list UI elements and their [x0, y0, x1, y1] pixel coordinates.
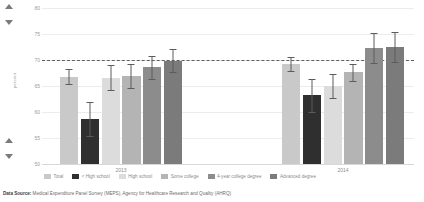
x-axis-tick-label: 2014: [337, 167, 348, 173]
legend-item[interactable]: High school: [119, 174, 153, 179]
legend-label: Total: [54, 174, 64, 179]
error-bar: [110, 65, 111, 90]
data-source-label: Data Source:: [3, 191, 31, 196]
legend-swatch: [72, 174, 79, 179]
y-axis-tick-label: 75: [26, 31, 40, 37]
bar[interactable]: [282, 64, 300, 164]
legend-item[interactable]: Advanced degree: [270, 174, 316, 179]
bar[interactable]: [164, 61, 182, 164]
legend-item[interactable]: 4-year college degree: [208, 174, 262, 179]
error-bar: [291, 57, 292, 71]
error-bar-cap-bottom: [308, 112, 315, 113]
error-bar: [374, 33, 375, 63]
bar[interactable]: [386, 47, 404, 164]
y-axis-tick-label: 70: [26, 57, 40, 63]
chart-widget: percent 80757065605550 20132014 Total< H…: [0, 0, 424, 202]
error-bar: [131, 64, 132, 88]
legend-item[interactable]: < High school: [72, 174, 109, 179]
legend-item[interactable]: Some college: [161, 174, 198, 179]
error-bar-cap-bottom: [371, 63, 378, 64]
legend-label: 4-year college degree: [217, 174, 261, 179]
arrow-down-icon[interactable]: [5, 20, 13, 25]
error-bar: [332, 74, 333, 99]
error-bar-cap-top: [169, 49, 176, 50]
bar[interactable]: [81, 119, 99, 164]
bar[interactable]: [303, 95, 321, 164]
error-bar: [89, 102, 90, 136]
bar-fill: [365, 48, 383, 164]
scroll-spinner-bottom[interactable]: [2, 138, 15, 159]
bar-group: [282, 8, 404, 164]
error-bar-cap-bottom: [391, 62, 398, 63]
error-bar-cap-bottom: [288, 71, 295, 72]
error-bar-cap-top: [308, 79, 315, 80]
error-bar-cap-top: [371, 33, 378, 34]
arrow-down-icon[interactable]: [5, 154, 13, 159]
bar-fill: [143, 67, 161, 164]
error-bar-cap-top: [149, 56, 156, 57]
bar-fill: [282, 64, 300, 164]
error-bar-cap-top: [288, 57, 295, 58]
gridline: [42, 164, 414, 165]
error-bar-cap-top: [128, 64, 135, 65]
legend-label: Advanced degree: [280, 174, 316, 179]
legend-swatch: [270, 174, 277, 179]
scroll-spinner-top[interactable]: [2, 4, 15, 25]
legend-label: Some college: [171, 174, 199, 179]
bar[interactable]: [143, 67, 161, 164]
bar-group: [60, 8, 182, 164]
error-bar-cap-top: [107, 65, 114, 66]
y-axis-tick-label: 55: [26, 135, 40, 141]
error-bar: [172, 49, 173, 73]
bar-fill: [164, 61, 182, 164]
error-bar-cap-top: [66, 69, 73, 70]
error-bar-cap-top: [329, 74, 336, 75]
legend-swatch: [119, 174, 126, 179]
y-axis-tick-label: 50: [26, 161, 40, 167]
chart-legend: Total< High schoolHigh schoolSome colleg…: [44, 174, 418, 179]
y-axis-tick-label: 65: [26, 83, 40, 89]
bar-fill: [386, 47, 404, 164]
error-bar-cap-bottom: [169, 72, 176, 73]
x-axis-tick-label: 2013: [115, 167, 126, 173]
error-bar: [311, 79, 312, 112]
bar[interactable]: [102, 78, 120, 164]
error-bar-cap-top: [391, 32, 398, 33]
error-bar-cap-bottom: [107, 90, 114, 91]
error-bar-cap-bottom: [329, 98, 336, 99]
legend-item[interactable]: Total: [44, 174, 63, 179]
bar-fill: [122, 76, 140, 164]
error-bar: [353, 64, 354, 82]
legend-swatch: [44, 174, 51, 179]
bar[interactable]: [344, 72, 362, 164]
error-bar-cap-bottom: [350, 81, 357, 82]
bar[interactable]: [60, 77, 78, 164]
arrow-up-icon[interactable]: [5, 138, 13, 143]
plot-area: 80757065605550 20132014: [42, 8, 414, 164]
y-axis-tick-label: 60: [26, 109, 40, 115]
error-bar-cap-top: [86, 102, 93, 103]
bar[interactable]: [122, 76, 140, 164]
bar-fill: [344, 72, 362, 164]
error-bar: [394, 32, 395, 62]
error-bar-cap-top: [350, 64, 357, 65]
legend-swatch: [161, 174, 168, 179]
bar[interactable]: [365, 48, 383, 164]
arrow-up-icon[interactable]: [5, 4, 13, 9]
error-bar-cap-bottom: [66, 84, 73, 85]
legend-label: High school: [128, 174, 152, 179]
error-bar: [69, 69, 70, 84]
data-source-text: Medical Expenditure Panel Survey (MEPS),…: [31, 191, 231, 196]
error-bar-cap-bottom: [86, 136, 93, 137]
bar-fill: [60, 77, 78, 164]
data-source-footer: Data Source: Medical Expenditure Panel S…: [3, 191, 231, 196]
bar-series-layer: [42, 8, 414, 164]
bar[interactable]: [324, 86, 342, 164]
y-axis-label: percent: [12, 55, 17, 107]
legend-label: < High school: [82, 174, 110, 179]
y-axis-tick-label: 80: [26, 5, 40, 11]
error-bar: [152, 56, 153, 79]
error-bar-cap-bottom: [149, 79, 156, 80]
legend-swatch: [208, 174, 215, 179]
error-bar-cap-bottom: [128, 88, 135, 89]
